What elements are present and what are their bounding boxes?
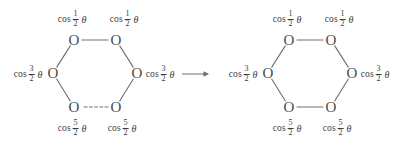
theta-symbol: θ	[296, 14, 301, 25]
atom-right-hexagon-bottom-left: O	[284, 100, 295, 115]
chemical-structure-figure: OOOOOOOOOOOO cos12θcos12θcos32θcos52θcos…	[0, 0, 399, 147]
fraction-numerator: 1	[72, 10, 78, 19]
fraction: 32	[28, 65, 34, 83]
cos-function-name: cos	[108, 123, 121, 133]
fraction: 12	[72, 10, 78, 28]
fraction-denominator: 2	[72, 20, 78, 29]
cos-label-right-hexagon-label-top-left: cos12θ	[273, 10, 302, 28]
cos-function-name: cos	[323, 123, 336, 133]
cos-label-right-hexagon-label-middle-right: cos32θ	[361, 65, 390, 83]
fraction-numerator: 5	[287, 119, 293, 128]
atom-right-hexagon-top-right: O	[326, 33, 337, 48]
atom-left-hexagon-bottom-right: O	[111, 100, 122, 115]
fraction-denominator: 2	[337, 129, 343, 138]
theta-symbol: θ	[384, 69, 389, 80]
theta-symbol: θ	[81, 14, 86, 25]
cos-function-name: cos	[229, 69, 242, 79]
theta-symbol: θ	[252, 69, 257, 80]
fraction-numerator: 3	[160, 65, 166, 74]
fraction: 52	[122, 119, 128, 137]
fraction: 32	[243, 65, 249, 83]
fraction: 52	[72, 119, 78, 137]
atom-left-hexagon-middle-left: O	[48, 66, 59, 81]
fraction: 12	[287, 10, 293, 28]
fraction-denominator: 2	[339, 20, 345, 29]
transformation-arrow	[182, 71, 209, 77]
fraction-numerator: 1	[124, 10, 130, 19]
fraction-numerator: 5	[337, 119, 343, 128]
theta-symbol: θ	[169, 69, 174, 80]
fraction-denominator: 2	[72, 129, 78, 138]
arrow-head	[204, 71, 210, 77]
fraction-numerator: 5	[72, 119, 78, 128]
cos-label-left-hexagon-label-top-left: cos12θ	[58, 10, 87, 28]
cos-function-name: cos	[361, 69, 374, 79]
fraction-denominator: 2	[28, 75, 34, 84]
fraction: 12	[124, 10, 130, 28]
atom-right-hexagon-middle-left: O	[263, 66, 274, 81]
theta-symbol: θ	[37, 69, 42, 80]
bond-middle-left-to-top-left	[57, 46, 70, 67]
fraction-numerator: 5	[122, 119, 128, 128]
fraction-denominator: 2	[287, 20, 293, 29]
fraction: 12	[339, 10, 345, 28]
bond-middle-left-to-top-left	[272, 46, 285, 67]
atom-left-hexagon-middle-right: O	[132, 66, 143, 81]
fraction-numerator: 3	[243, 65, 249, 74]
theta-symbol: θ	[348, 14, 353, 25]
theta-symbol: θ	[346, 123, 351, 134]
fraction-denominator: 2	[124, 20, 130, 29]
cos-function-name: cos	[146, 69, 159, 79]
fraction: 32	[160, 65, 166, 83]
cos-function-name: cos	[325, 14, 338, 24]
cos-label-left-hexagon-label-bottom-left: cos52θ	[58, 119, 87, 137]
fraction-numerator: 1	[339, 10, 345, 19]
cos-label-left-hexagon-label-top-right: cos12θ	[110, 10, 139, 28]
fraction-denominator: 2	[287, 129, 293, 138]
cos-label-right-hexagon-label-bottom-right: cos52θ	[323, 119, 352, 137]
cos-function-name: cos	[110, 14, 123, 24]
fraction-denominator: 2	[375, 75, 381, 84]
theta-symbol: θ	[81, 123, 86, 134]
atom-left-hexagon-top-right: O	[111, 33, 122, 48]
atom-left-hexagon-top-left: O	[69, 33, 80, 48]
atom-right-hexagon-top-left: O	[284, 33, 295, 48]
fraction-numerator: 3	[375, 65, 381, 74]
cos-label-left-hexagon-label-middle-left: cos32θ	[14, 65, 43, 83]
cos-function-name: cos	[14, 69, 27, 79]
fraction: 32	[375, 65, 381, 83]
atom-right-hexagon-bottom-right: O	[326, 100, 337, 115]
theta-symbol: θ	[133, 14, 138, 25]
cos-function-name: cos	[273, 123, 286, 133]
fraction-numerator: 3	[28, 65, 34, 74]
atom-right-hexagon-middle-right: O	[347, 66, 358, 81]
atom-left-hexagon-bottom-left: O	[69, 100, 80, 115]
cos-label-right-hexagon-label-top-right: cos12θ	[325, 10, 354, 28]
fraction-denominator: 2	[160, 75, 166, 84]
cos-function-name: cos	[273, 14, 286, 24]
left-hexagon-bonds	[57, 40, 134, 107]
fraction: 52	[337, 119, 343, 137]
theta-symbol: θ	[296, 123, 301, 134]
cos-label-right-hexagon-label-bottom-left: cos52θ	[273, 119, 302, 137]
bond-middle-right-to-bottom-right	[335, 79, 349, 101]
bond-middle-right-to-bottom-right	[120, 79, 134, 101]
fraction-numerator: 1	[287, 10, 293, 19]
cos-label-left-hexagon-label-middle-right: cos32θ	[146, 65, 175, 83]
cos-function-name: cos	[58, 14, 71, 24]
cos-label-right-hexagon-label-middle-left: cos32θ	[229, 65, 258, 83]
fraction: 52	[287, 119, 293, 137]
cos-function-name: cos	[58, 123, 71, 133]
fraction-denominator: 2	[243, 75, 249, 84]
fraction-denominator: 2	[122, 129, 128, 138]
cos-label-left-hexagon-label-bottom-right: cos52θ	[108, 119, 137, 137]
right-hexagon-bonds	[272, 40, 349, 107]
theta-symbol: θ	[131, 123, 136, 134]
